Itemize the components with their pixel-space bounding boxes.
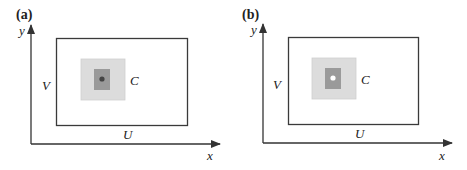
x-axis-label-a: x — [206, 148, 213, 163]
height-label-b: V — [273, 77, 283, 92]
y-axis-label-b: y — [249, 22, 257, 37]
x-axis-label-b: x — [438, 148, 445, 163]
dark-dot-a — [99, 76, 104, 81]
panel-label-a: (a) — [16, 7, 33, 23]
width-label-a: U — [123, 127, 134, 142]
region-label-b: C — [361, 72, 370, 87]
figure: (a) y x V C U (b) y x V C U — [0, 0, 467, 170]
width-label-b: U — [355, 126, 366, 141]
height-label-a: V — [42, 78, 52, 93]
white-dot-b — [330, 75, 335, 80]
y-axis-label-a: y — [17, 23, 25, 38]
panel-label-b: (b) — [242, 7, 259, 23]
panel-b: (b) y x V C U — [242, 7, 452, 163]
region-label-a: C — [130, 73, 139, 88]
panel-a: (a) y x V C U — [16, 7, 220, 163]
